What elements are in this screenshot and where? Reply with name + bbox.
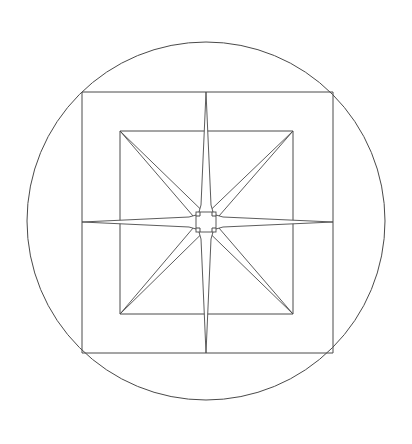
west-point — [82, 215, 199, 229]
southeast-point — [208, 223, 293, 314]
center-hub — [196, 212, 216, 232]
east-point — [213, 215, 333, 229]
northeast-point — [208, 131, 293, 221]
south-point — [199, 229, 213, 353]
southwest-point — [120, 223, 204, 314]
compass-rose-figure: Compass Rose Geometric Line Drawing Eigh… — [0, 0, 412, 444]
north-point — [199, 92, 213, 215]
northwest-point — [120, 131, 204, 221]
